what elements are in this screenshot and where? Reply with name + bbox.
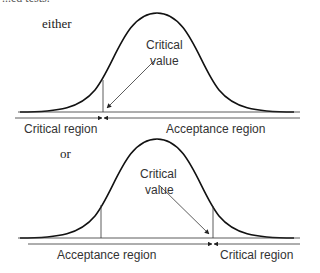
critical-value-label-line2: value bbox=[150, 55, 179, 67]
critical-region-label: Critical region bbox=[24, 123, 97, 135]
acceptance-region-label: Acceptance region bbox=[57, 249, 156, 261]
critical-region-label: Critical region bbox=[220, 249, 293, 261]
or-label: or bbox=[60, 147, 71, 160]
critical-value-label-line1: Critical bbox=[140, 168, 177, 180]
acceptance-region-label: Acceptance region bbox=[166, 123, 265, 135]
critical-value-label-line1: Critical bbox=[146, 39, 183, 51]
critical-value-label-line2: value bbox=[145, 184, 174, 196]
either-label: either bbox=[42, 17, 72, 30]
critical-value-arrow bbox=[107, 60, 155, 108]
